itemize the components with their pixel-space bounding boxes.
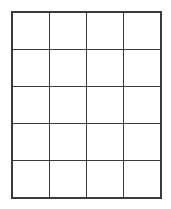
grid-row	[12, 49, 161, 86]
grid-cell[interactable]	[123, 124, 161, 161]
grid-cell[interactable]	[123, 161, 161, 198]
grid-cell[interactable]	[86, 12, 123, 49]
grid-cell[interactable]	[49, 86, 86, 123]
grid-cell[interactable]	[12, 124, 49, 161]
grid-cell[interactable]	[123, 12, 161, 49]
grid-cell[interactable]	[12, 12, 49, 49]
grid-cell[interactable]	[12, 161, 49, 198]
grid-cell[interactable]	[49, 161, 86, 198]
grid-row	[12, 12, 161, 49]
grid-cell[interactable]	[86, 49, 123, 86]
grid-cell[interactable]	[49, 124, 86, 161]
grid-cell[interactable]	[123, 86, 161, 123]
grid-cell[interactable]	[86, 124, 123, 161]
grid-cell[interactable]	[12, 86, 49, 123]
grid-cell[interactable]	[86, 86, 123, 123]
grid-cell[interactable]	[12, 49, 49, 86]
grid-figure	[0, 0, 171, 209]
grid-row	[12, 161, 161, 198]
grid-row	[12, 124, 161, 161]
grid-table	[11, 11, 162, 199]
grid-cell[interactable]	[123, 49, 161, 86]
grid-cell[interactable]	[86, 161, 123, 198]
grid-cell[interactable]	[49, 12, 86, 49]
grid-body	[12, 12, 161, 198]
grid-cell[interactable]	[49, 49, 86, 86]
grid-row	[12, 86, 161, 123]
